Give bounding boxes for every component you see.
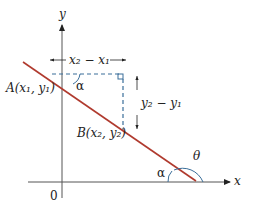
rise-label: y₂ − y₁ bbox=[141, 97, 182, 109]
theta-label: θ bbox=[193, 150, 200, 162]
point-b-label: B(x₂, y₂) bbox=[77, 127, 126, 139]
diagram-graphics bbox=[0, 0, 255, 210]
origin-label: 0 bbox=[50, 190, 58, 202]
x-axis-label: x bbox=[234, 175, 241, 187]
alpha-top-label: α bbox=[76, 80, 84, 92]
y-axis-label: y bbox=[59, 8, 66, 20]
alpha-arc-bottom bbox=[168, 171, 172, 182]
sloped-line bbox=[23, 62, 196, 181]
run-label: x₂ − x₁ bbox=[69, 54, 110, 66]
alpha-bottom-label: α bbox=[157, 167, 165, 179]
point-a-label: A(x₁, y₁) bbox=[6, 82, 55, 94]
right-angle-mark bbox=[118, 74, 123, 79]
slope-diagram: y x 0 x₂ − x₁ y₂ − y₁ A(x₁, y₁) B(x₂, y₂… bbox=[0, 0, 255, 210]
